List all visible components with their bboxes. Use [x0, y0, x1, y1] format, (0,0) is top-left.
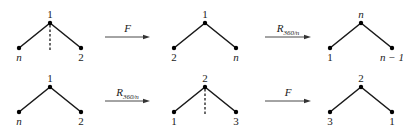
left-label: 2 — [171, 51, 177, 63]
arrow-head-icon — [304, 35, 311, 39]
arrow-label-main: F — [284, 86, 292, 98]
apex-label: 1 — [47, 72, 53, 84]
apex-label: 1 — [202, 8, 208, 20]
arrow-head-icon — [143, 35, 150, 39]
top-row: 1n212nn1n − 1FR360/n — [16, 8, 404, 63]
rotation-arrow: R360/n — [105, 86, 150, 103]
apex-label: 2 — [358, 72, 364, 84]
arrow-label-subscript: 360/n — [122, 93, 139, 101]
right-vertex — [79, 46, 83, 50]
left-edge — [174, 23, 205, 48]
left-vertex — [172, 110, 176, 114]
left-edge — [19, 87, 50, 112]
left-vertex — [328, 46, 332, 50]
right-vertex — [390, 46, 394, 50]
flip-arrow: F — [265, 86, 311, 103]
vertex-config-after-first: 12n — [171, 8, 239, 63]
left-vertex — [172, 46, 176, 50]
right-edge — [361, 23, 392, 48]
apex-label: 1 — [47, 8, 53, 20]
left-label: n — [16, 115, 22, 127]
right-label: 2 — [78, 51, 84, 63]
arrow-head-icon — [304, 99, 311, 103]
arrow-head-icon — [143, 99, 150, 103]
apex-vertex — [359, 21, 363, 25]
rotation-arrow: R360/n — [265, 22, 311, 39]
arrow-label: F — [123, 22, 131, 34]
right-vertex — [234, 46, 238, 50]
right-vertex — [390, 110, 394, 114]
right-label: 2 — [78, 115, 84, 127]
arrow-label-main: F — [123, 22, 131, 34]
right-edge — [205, 23, 236, 48]
right-label: 3 — [233, 115, 239, 127]
flip-rotation-diagram: 1n212nn1n − 1FR360/n1n2213231R360/nF — [0, 0, 416, 135]
right-label: n − 1 — [380, 51, 404, 63]
apex-vertex — [203, 85, 207, 89]
right-edge — [50, 23, 81, 48]
right-label: 1 — [389, 115, 395, 127]
vertex-config-start: 1n2 — [16, 8, 84, 63]
left-edge — [330, 23, 361, 48]
left-label: 1 — [171, 115, 177, 127]
vertex-config-start: 1n2 — [16, 72, 84, 127]
apex-label: n — [358, 8, 364, 20]
vertex-config-after-first: 213 — [171, 72, 239, 127]
left-label: 3 — [327, 115, 333, 127]
arrow-label: R360/n — [276, 22, 300, 37]
apex-label: 2 — [202, 72, 208, 84]
flip-arrow: F — [105, 22, 150, 39]
left-label: n — [16, 51, 22, 63]
arrow-label: R360/n — [115, 86, 139, 101]
left-vertex — [17, 46, 21, 50]
left-vertex — [328, 110, 332, 114]
left-vertex — [17, 110, 21, 114]
right-vertex — [234, 110, 238, 114]
vertex-config-after-second: 231 — [327, 72, 395, 127]
left-edge — [174, 87, 205, 112]
left-edge — [330, 87, 361, 112]
right-edge — [50, 87, 81, 112]
left-label: 1 — [327, 51, 333, 63]
apex-vertex — [359, 85, 363, 89]
vertex-config-after-second: n1n − 1 — [327, 8, 404, 63]
apex-vertex — [203, 21, 207, 25]
arrow-label-subscript: 360/n — [282, 29, 299, 37]
left-edge — [19, 23, 50, 48]
arrow-label: F — [284, 86, 292, 98]
apex-vertex — [48, 21, 52, 25]
bottom-row: 1n2213231R360/nF — [16, 72, 395, 127]
right-vertex — [79, 110, 83, 114]
right-edge — [361, 87, 392, 112]
apex-vertex — [48, 85, 52, 89]
right-edge — [205, 87, 236, 112]
right-label: n — [233, 51, 239, 63]
